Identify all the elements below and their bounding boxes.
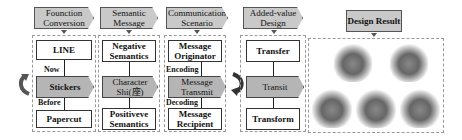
box-transform: Transform <box>246 108 300 130</box>
box-stickers: Stickers <box>36 76 94 98</box>
connector <box>201 62 202 76</box>
cycle-arrow-icon <box>16 72 32 96</box>
box-positive-semantics: Positiveve Semantics <box>102 108 156 130</box>
header-semantic-message: Semantic Message <box>100 7 158 29</box>
design-image-2 <box>390 42 428 82</box>
connector <box>64 60 65 76</box>
design-image-3 <box>312 88 352 128</box>
label-now: Now <box>44 66 60 74</box>
arrow-down-icon <box>371 33 377 37</box>
box-message-originator: Message Originator <box>168 40 222 62</box>
header-communication-scenario: Communication Scenario <box>166 7 228 29</box>
box-line: LINE <box>36 40 92 60</box>
box-character-shi: Character Shi(座) <box>102 76 158 98</box>
label-before: Before <box>38 99 61 107</box>
connector <box>273 62 274 76</box>
box-message-transmit: Message Transmit <box>168 76 226 98</box>
header-design-result: Design Result <box>346 10 402 32</box>
header-function-conversion: Founction Conversion <box>34 7 94 29</box>
arrow-down-icon <box>194 30 200 34</box>
connector <box>129 62 130 76</box>
design-image-1 <box>334 42 372 82</box>
box-transit: Transit <box>246 76 304 98</box>
design-image-5 <box>400 88 440 128</box>
header-added-value-design: Added-value Design <box>243 7 303 29</box>
design-image-4 <box>356 88 396 128</box>
arrow-down-icon <box>271 30 277 34</box>
arrow-down-icon <box>61 30 67 34</box>
label-encoding: Encoding <box>166 66 198 74</box>
box-message-recipient: Message Recipient <box>168 108 222 130</box>
label-decoding: Decoding <box>166 99 198 107</box>
box-negative-semantics: Negative Semantics <box>102 40 156 62</box>
box-transfer: Transfer <box>246 40 300 62</box>
arrow-down-icon <box>126 30 132 34</box>
box-papercut: Papercut <box>36 110 92 128</box>
